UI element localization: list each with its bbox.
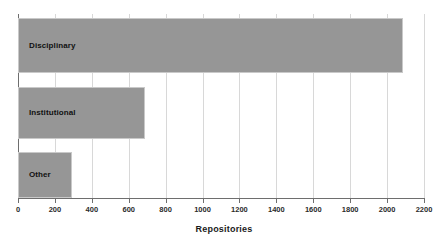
x-tick-mark-1600 [313,199,314,203]
x-tick-mark-1400 [276,199,277,203]
x-tick-mark-200 [55,199,56,203]
x-tick-mark-1000 [203,199,204,203]
x-tick-label-1600: 1600 [305,205,322,214]
x-tick-mark-400 [92,199,93,203]
bar-label-institutional: Institutional [29,108,76,117]
x-tick-mark-0 [18,199,19,203]
x-axis-line [18,198,425,199]
x-tick-label-800: 800 [159,205,172,214]
x-tick-label-0: 0 [16,205,20,214]
x-tick-label-200: 200 [49,205,62,214]
bar-chart: Repositories 020040060080010001200140016… [0,0,448,249]
x-tick-label-1000: 1000 [194,205,211,214]
x-tick-label-1200: 1200 [231,205,248,214]
x-tick-label-600: 600 [122,205,135,214]
x-tick-mark-2200 [424,199,425,203]
x-tick-label-400: 400 [86,205,99,214]
x-tick-label-1400: 1400 [268,205,285,214]
x-tick-label-1800: 1800 [342,205,359,214]
bar-label-other: Other [29,170,51,179]
x-tick-mark-800 [166,199,167,203]
x-axis-title: Repositories [0,224,448,234]
x-tick-mark-2000 [387,199,388,203]
gridline-2200 [424,14,425,198]
x-tick-mark-1800 [350,199,351,203]
x-tick-label-2000: 2000 [379,205,396,214]
bar-label-disciplinary: Disciplinary [29,41,76,50]
x-tick-mark-600 [129,199,130,203]
x-tick-label-2200: 2200 [416,205,433,214]
x-tick-mark-1200 [239,199,240,203]
